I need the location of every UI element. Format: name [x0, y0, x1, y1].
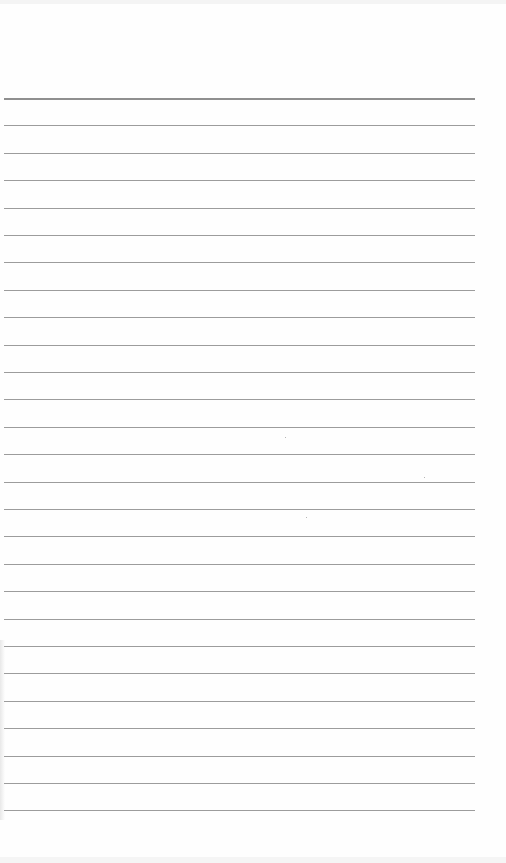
rule-line [4, 399, 475, 400]
rule-line [4, 646, 475, 647]
rule-line [4, 372, 475, 373]
paper-speck [424, 477, 425, 478]
rule-line [4, 180, 475, 181]
rule-line [4, 454, 475, 455]
paper-speck [285, 437, 286, 438]
notebook-page [0, 0, 506, 863]
page-bottom-edge [0, 857, 506, 863]
rule-line [4, 673, 475, 674]
rule-line [4, 153, 475, 154]
rule-line [4, 262, 475, 263]
rule-line [4, 701, 475, 702]
rule-line [4, 564, 475, 565]
rule-line [4, 345, 475, 346]
rule-line [4, 756, 475, 757]
rule-line [4, 235, 475, 236]
rule-line [4, 810, 475, 811]
rule-line [4, 208, 475, 209]
rule-line [4, 783, 475, 784]
rule-line [4, 427, 475, 428]
paper-speck [306, 517, 307, 518]
rule-line [4, 591, 475, 592]
rule-line [4, 619, 475, 620]
rule-line [4, 509, 475, 510]
rule-line [4, 290, 475, 291]
rule-line [4, 728, 475, 729]
rule-line [4, 536, 475, 537]
rule-line [4, 125, 475, 126]
header-rule-line [4, 98, 475, 100]
ruled-lines [4, 0, 475, 863]
rule-line [4, 482, 475, 483]
rule-line [4, 317, 475, 318]
